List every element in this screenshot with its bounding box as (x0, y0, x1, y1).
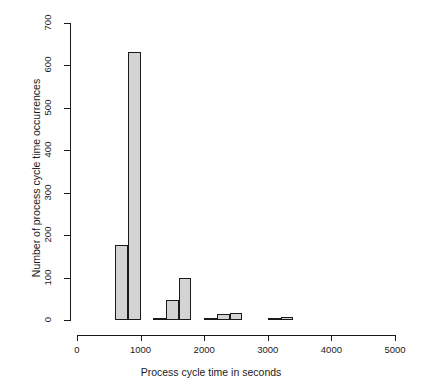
plot-area: 0100200300400500600700 01000200030004000… (0, 0, 422, 392)
y-axis-tick-label: 300 (42, 179, 53, 205)
y-axis-tick (64, 193, 70, 194)
x-axis-line (77, 335, 396, 336)
y-axis-tick-label: 500 (42, 94, 53, 120)
y-axis-line (70, 23, 71, 321)
y-axis-tick-label: 400 (42, 137, 53, 163)
y-axis-tick-label: 100 (42, 264, 53, 290)
x-axis-tick-label: 1000 (130, 344, 151, 355)
x-axis-tick (395, 335, 396, 341)
x-axis-tick-label: 5000 (384, 344, 405, 355)
histogram-figure: 0100200300400500600700 01000200030004000… (0, 0, 422, 392)
x-axis-title: Process cycle time in seconds (0, 366, 422, 378)
x-axis-tick-label: 3000 (257, 344, 278, 355)
histogram-bar (128, 52, 141, 320)
histogram-bar (217, 314, 230, 320)
y-axis-tick (64, 320, 70, 321)
y-axis-tick (64, 278, 70, 279)
histogram-bar (230, 313, 243, 320)
histogram-bar (268, 318, 281, 320)
histogram-bar (115, 245, 128, 320)
y-axis-tick (64, 65, 70, 66)
y-axis-tick-label: 600 (42, 52, 53, 78)
x-axis-tick-label: 4000 (321, 344, 342, 355)
y-axis-tick-label: 700 (42, 10, 53, 36)
y-axis-tick-label: 200 (42, 222, 53, 248)
histogram-bar (179, 278, 192, 320)
y-axis-title: Number of process cycle time occurrences (30, 58, 42, 298)
x-axis-tick (268, 335, 269, 341)
x-axis-tick (141, 335, 142, 341)
x-axis-tick (204, 335, 205, 341)
x-axis-tick (331, 335, 332, 341)
histogram-bar (281, 317, 294, 320)
y-axis-tick (64, 108, 70, 109)
y-axis-tick (64, 23, 70, 24)
x-axis-tick-label: 2000 (194, 344, 215, 355)
x-axis-tick-label: 0 (74, 344, 79, 355)
histogram-bar (153, 318, 166, 320)
y-axis-tick (64, 235, 70, 236)
histogram-bar (204, 318, 217, 320)
y-axis-tick (64, 150, 70, 151)
y-axis-tick-label: 0 (42, 307, 53, 333)
x-axis-tick (77, 335, 78, 341)
histogram-bar (166, 300, 179, 320)
